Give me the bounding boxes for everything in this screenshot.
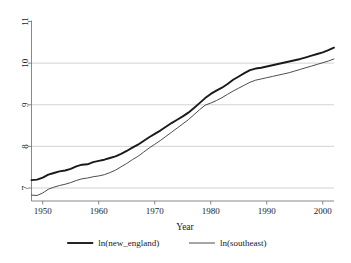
y-tick-label-8: 8 — [20, 144, 30, 149]
legend-label-0: ln(new_england) — [98, 238, 159, 248]
x-tick-label-1950: 1950 — [34, 206, 53, 216]
x-tick-label-1960: 1960 — [90, 206, 109, 216]
legend-label-1: ln(southeast) — [220, 238, 267, 248]
x-tick-label-1990: 1990 — [258, 206, 277, 216]
x-tick-label-1980: 1980 — [202, 206, 221, 216]
line-chart: 195019601970198019902000 7891011 Year ln… — [0, 0, 351, 263]
x-tick-label-1970: 1970 — [146, 206, 165, 216]
y-tick-label-9: 9 — [20, 102, 30, 107]
y-tick-label-7: 7 — [20, 185, 30, 190]
chart-container: 195019601970198019902000 7891011 Year ln… — [0, 0, 351, 263]
x-axis-title: Year — [176, 222, 194, 232]
y-tick-label-10: 10 — [20, 58, 30, 68]
x-tick-label-2000: 2000 — [314, 206, 333, 216]
y-tick-label-11: 11 — [20, 17, 30, 26]
